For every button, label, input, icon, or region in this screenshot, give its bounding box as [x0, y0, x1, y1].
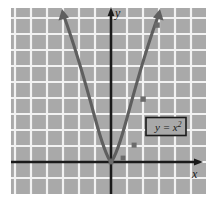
curve-point	[154, 22, 159, 27]
y-axis-label: y	[114, 6, 121, 20]
curve-point	[109, 160, 114, 165]
curve-point	[132, 143, 137, 148]
equation-text-main: y = x	[154, 121, 178, 133]
parabola-figure: y = x2 y x	[0, 0, 216, 203]
curve-point	[140, 96, 145, 101]
equation-label: y = x2	[146, 118, 186, 136]
plot-background	[11, 8, 206, 194]
x-axis-label: x	[191, 167, 198, 181]
equation-exponent: 2	[178, 120, 182, 129]
curve-point	[121, 156, 126, 161]
graph-canvas: y = x2 y x	[0, 0, 216, 203]
equation-text: y = x2	[154, 120, 182, 133]
